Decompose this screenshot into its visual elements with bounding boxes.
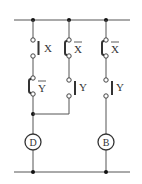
junction-dot — [104, 170, 108, 174]
contact-label: X — [44, 42, 52, 54]
contact-label: Y — [79, 81, 87, 93]
contact-y-normally-open: Y — [104, 78, 124, 98]
contact-label: X — [74, 43, 82, 55]
load-d: D — [25, 134, 41, 150]
contact-y-bar-normally-closed: Y — [29, 76, 46, 96]
contact-x-bar-normally-closed: X — [102, 38, 119, 58]
branch-1: X Y D — [25, 20, 52, 172]
contact-label: Y — [38, 82, 46, 94]
relay-circuit-diagram: X Y D X — [0, 0, 142, 184]
contact-y-normally-open: Y — [67, 78, 87, 98]
junction-dot — [31, 170, 35, 174]
contact-x-normally-open: X — [31, 38, 52, 58]
load-label: B — [103, 137, 110, 148]
load-b: B — [98, 134, 114, 150]
contact-x-bar-normally-closed: X — [65, 38, 82, 58]
branch-2: X Y — [33, 20, 87, 114]
load-label: D — [29, 137, 36, 148]
branch-3: X Y B — [98, 20, 124, 172]
contact-label: X — [111, 43, 119, 55]
contact-label: Y — [116, 81, 124, 93]
